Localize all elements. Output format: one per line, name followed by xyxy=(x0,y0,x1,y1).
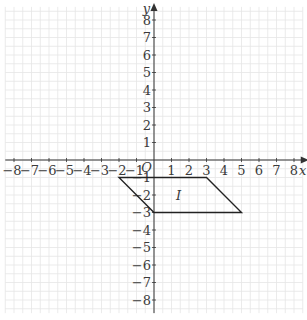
y-axis-arrow-icon xyxy=(151,3,158,11)
y-tick-label: 3 xyxy=(143,100,151,115)
y-tick-label: −7 xyxy=(132,275,151,290)
x-tick-label: 7 xyxy=(272,163,280,178)
y-tick-label: −5 xyxy=(132,240,151,255)
y-tick-label: −4 xyxy=(132,223,151,238)
y-tick-label: 7 xyxy=(143,30,151,45)
x-tick-label: −4 xyxy=(72,163,91,178)
x-tick-label: −7 xyxy=(20,163,39,178)
y-tick-label: 2 xyxy=(143,118,151,133)
x-tick-label: −8 xyxy=(2,163,21,178)
x-tick-label: 4 xyxy=(220,163,228,178)
y-tick-label: −8 xyxy=(132,293,151,308)
origin-label: O xyxy=(141,160,152,175)
y-tick-label: 4 xyxy=(143,83,151,98)
x-axis-label: x xyxy=(299,163,307,178)
x-tick-label: −3 xyxy=(90,163,109,178)
shape-label: I xyxy=(175,188,182,203)
coordinate-plane: −8−7−6−5−4−3−2−112345678−8−7−6−5−4−3−2−1… xyxy=(0,0,307,320)
x-tick-label: −6 xyxy=(37,163,56,178)
x-tick-label: 1 xyxy=(167,163,175,178)
y-tick-label: 5 xyxy=(143,65,151,80)
x-tick-label: −5 xyxy=(55,163,74,178)
y-axis-label: y xyxy=(142,1,151,16)
x-tick-label: −2 xyxy=(107,163,126,178)
x-tick-label: 3 xyxy=(202,163,210,178)
axes xyxy=(5,3,307,313)
x-tick-label: 6 xyxy=(255,163,263,178)
x-tick-label: 5 xyxy=(237,163,245,178)
x-tick-label: 2 xyxy=(185,163,193,178)
y-tick-label: 1 xyxy=(143,135,151,150)
y-tick-label: −6 xyxy=(132,258,151,273)
x-tick-label: 8 xyxy=(290,163,298,178)
tick-labels: −8−7−6−5−4−3−2−112345678−8−7−6−5−4−3−2−1… xyxy=(2,1,307,308)
y-tick-label: 6 xyxy=(143,48,151,63)
